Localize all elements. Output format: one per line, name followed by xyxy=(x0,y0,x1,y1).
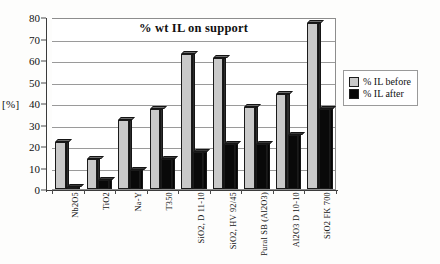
x-axis-category-label: SiO2, D 11-10 xyxy=(197,192,206,243)
bar-il-before xyxy=(55,142,66,189)
bar-il-after xyxy=(256,144,267,189)
bar-face xyxy=(150,109,161,189)
bar-side-3d xyxy=(330,109,333,189)
bar-face xyxy=(55,142,66,189)
bar-top-3d xyxy=(256,141,273,144)
bar-group xyxy=(115,19,147,189)
bar-face xyxy=(307,23,318,189)
y-tick-label: 40 xyxy=(29,99,40,110)
bar-face xyxy=(161,159,172,189)
bar-face xyxy=(87,159,98,189)
y-axis-line xyxy=(46,18,47,192)
bar-face xyxy=(276,94,287,189)
bar-il-after xyxy=(67,187,78,189)
bar-top-3d xyxy=(276,91,293,94)
bar-face xyxy=(319,109,330,189)
bar-il-before xyxy=(213,58,224,189)
bar-top-3d xyxy=(224,141,241,144)
bar-il-before xyxy=(307,23,318,189)
bar-group xyxy=(84,19,116,189)
bar-side-3d xyxy=(172,159,175,189)
x-axis-category-label: SiO2 FK 700 xyxy=(323,192,332,239)
bar-side-3d xyxy=(140,170,143,189)
bar-side-3d xyxy=(77,187,80,189)
y-axis-title: [%] xyxy=(2,99,19,110)
bar-side-3d xyxy=(66,142,69,189)
bar-il-after xyxy=(193,152,204,189)
y-tick-label: 50 xyxy=(29,77,40,88)
bar-il-before xyxy=(118,120,129,189)
y-tick-label: 10 xyxy=(29,163,40,174)
bar-face xyxy=(213,58,224,189)
bar-chart: 01020304050607080 [%] % wt IL on support… xyxy=(0,0,440,264)
bar-top-3d xyxy=(213,55,230,58)
legend-swatch-after-icon xyxy=(349,89,359,99)
bar-il-before xyxy=(244,107,255,189)
x-axis-category-label: SiO2, HV 92/45 xyxy=(229,192,238,249)
bar-il-before xyxy=(181,54,192,189)
x-axis-labels: Nb2O5TiO2Na-YT350SiO2, D 11-10SiO2, HV 9… xyxy=(0,192,440,264)
bar-il-after xyxy=(98,180,109,189)
bar-face xyxy=(244,107,255,189)
bar-face xyxy=(98,180,109,189)
bar-side-3d xyxy=(109,180,112,189)
bar-top-3d xyxy=(118,117,135,120)
y-tick-label: 70 xyxy=(29,34,40,45)
y-tick-label: 30 xyxy=(29,120,40,131)
bar-face xyxy=(130,170,141,189)
x-axis-category-label: TiO2 xyxy=(102,192,111,210)
bar-top-3d xyxy=(161,156,178,159)
bar-top-3d xyxy=(130,167,147,170)
bar-top-3d xyxy=(67,184,84,187)
bar-side-3d xyxy=(298,135,301,189)
bars-container xyxy=(52,19,335,189)
legend-entry-before: % IL before xyxy=(349,77,411,87)
legend-label-before: % IL before xyxy=(363,77,411,87)
plot-area: % wt IL on support xyxy=(52,18,336,190)
y-tick-label: 60 xyxy=(29,56,40,67)
bar-il-after xyxy=(319,109,330,189)
bar-il-after xyxy=(288,135,299,189)
bar-side-3d xyxy=(235,144,238,189)
bar-group xyxy=(147,19,179,189)
bar-top-3d xyxy=(55,139,72,142)
bar-top-3d xyxy=(244,104,261,107)
bar-il-after xyxy=(130,170,141,189)
bar-group xyxy=(304,19,336,189)
bar-side-3d xyxy=(203,152,206,189)
bar-top-3d xyxy=(98,177,115,180)
bar-top-3d xyxy=(181,51,198,54)
bar-il-before xyxy=(276,94,287,189)
bar-face xyxy=(67,187,78,189)
bar-il-after xyxy=(161,159,172,189)
bar-il-before xyxy=(87,159,98,189)
legend-label-after: % IL after xyxy=(363,89,404,99)
y-tick-label: 80 xyxy=(29,13,40,24)
bar-side-3d xyxy=(267,144,270,189)
bar-il-after xyxy=(224,144,235,189)
bar-group xyxy=(210,19,242,189)
x-axis-category-label: Na-Y xyxy=(134,192,143,211)
bar-face xyxy=(256,144,267,189)
legend-entry-after: % IL after xyxy=(349,89,411,99)
x-axis-category-label: T350 xyxy=(165,192,174,210)
bar-top-3d xyxy=(87,156,104,159)
bar-group xyxy=(178,19,210,189)
bar-face xyxy=(118,120,129,189)
chart-legend: % IL before % IL after xyxy=(343,70,418,106)
y-tick-label: 20 xyxy=(29,142,40,153)
bar-face xyxy=(193,152,204,189)
legend-swatch-before-icon xyxy=(349,77,359,87)
x-axis-category-label: Al2O3 D 10-10 xyxy=(292,192,301,247)
bar-face xyxy=(288,135,299,189)
bar-group xyxy=(52,19,84,189)
x-axis-category-label: Nb2O5 xyxy=(71,192,80,218)
bar-face xyxy=(224,144,235,189)
bar-group xyxy=(241,19,273,189)
x-axis-category-label: Pural SB (Al2O3) xyxy=(260,192,269,256)
bar-il-before xyxy=(150,109,161,189)
bar-top-3d xyxy=(288,132,305,135)
bar-group xyxy=(273,19,305,189)
bar-face xyxy=(181,54,192,189)
